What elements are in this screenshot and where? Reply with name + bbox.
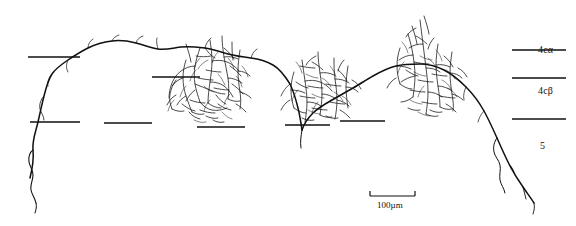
- layer-label-4c-alpha: 4cα: [538, 44, 553, 55]
- scale-bar-graphic: [370, 191, 415, 196]
- layer-label-4c-beta: 4cβ: [538, 85, 553, 96]
- scale-bar-label: 100µm: [377, 200, 403, 210]
- layer-label-5: 5: [540, 140, 545, 151]
- figure-panel: 4cα 4cβ 5 100µm: [0, 0, 576, 226]
- neuron-tracing-drawing: [0, 0, 576, 226]
